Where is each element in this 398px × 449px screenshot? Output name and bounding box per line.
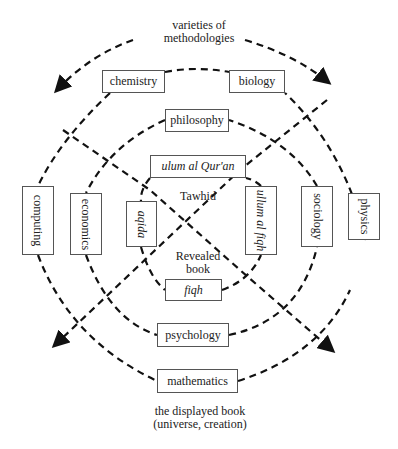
box-ulum-fiqh-label: ullum al fiqh (254, 190, 269, 251)
box-physics-label: physics (357, 199, 372, 235)
box-mathematics-label: mathematics (167, 374, 228, 389)
box-chemistry-label: chemistry (110, 74, 157, 89)
box-biology: biology (229, 70, 285, 93)
title-top: varieties of methodologies (133, 19, 265, 45)
box-ulum-quran-label: ulum al Qur'an (161, 159, 234, 174)
box-aqida: aqida (126, 201, 157, 247)
center-label-tawhid: Tawhid (170, 190, 226, 203)
center-label-revealed-book: Revealed book (170, 250, 226, 276)
box-computing: computing (22, 186, 54, 255)
box-philosophy-label: philosophy (170, 113, 223, 128)
box-sociology: sociology (301, 186, 333, 247)
box-ulum-fiqh: ullum al fiqh (245, 186, 277, 255)
book-text: book (170, 263, 226, 276)
box-fiqh-label: fiqh (184, 283, 203, 298)
box-psychology-label: psychology (165, 328, 220, 343)
box-psychology: psychology (157, 323, 229, 347)
title-top-line2: methodologies (133, 32, 265, 45)
title-bottom: the displayed book (universe, creation) (140, 405, 260, 431)
title-bottom-line2: (universe, creation) (140, 418, 260, 431)
box-economics: economics (70, 193, 102, 255)
box-sociology-label: sociology (310, 193, 325, 240)
box-aqida-label: aqida (134, 210, 149, 237)
box-biology-label: biology (239, 74, 276, 89)
box-fiqh: fiqh (165, 279, 222, 301)
box-chemistry: chemistry (102, 70, 165, 93)
tawhid-text: Tawhid (180, 189, 216, 203)
box-ulum-quran: ulum al Qur'an (150, 155, 246, 178)
box-mathematics: mathematics (157, 369, 238, 393)
box-computing-label: computing (31, 195, 46, 246)
box-philosophy: philosophy (165, 109, 229, 132)
box-economics-label: economics (79, 198, 94, 249)
box-physics: physics (348, 193, 380, 240)
